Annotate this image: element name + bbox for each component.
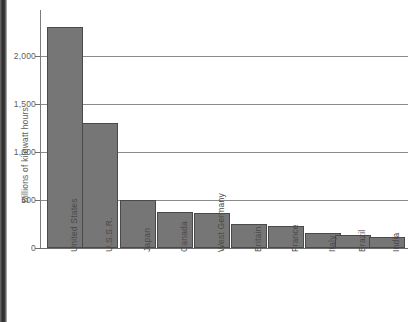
xtick-label-canada: Canada [179,221,189,252]
xtick-label-france: France [290,224,300,252]
gridline-2000 [40,56,408,57]
ytick-label-2000: 2,000 [14,51,36,61]
xtick-label-japan: Japan [142,228,152,252]
bar-chart: 2,000 1,500 1,000 500 0 Billions of kilo… [0,0,413,322]
xtick-label-brazil: Brazil [357,230,367,252]
y-axis-title: Billions of kilowatt hours [20,95,30,215]
xtick-label-ussr: U.S.S.R. [104,217,114,252]
xtick-label-united-states: United States [69,198,79,252]
chart-page: 2,000 1,500 1,000 500 0 Billions of kilo… [0,0,413,322]
xtick-label-india: India [391,233,401,252]
xtick-label-britain: Britain [253,227,263,253]
xtick-label-west-germany: West Germany [216,193,226,252]
xtick-label-italy: Italy [327,235,337,252]
y-axis-line [40,10,41,249]
gridline-1500 [40,104,408,105]
